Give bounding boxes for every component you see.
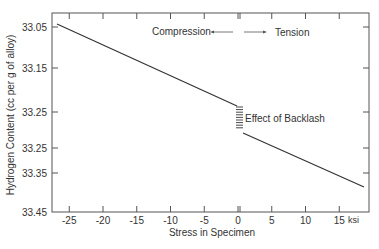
x-tick-label: 5 xyxy=(269,215,275,226)
x-tick-label: -5 xyxy=(200,215,209,226)
x-unit-label: ksi xyxy=(348,215,359,225)
tension-line xyxy=(243,133,364,187)
backlash-label: Effect of Backlash xyxy=(245,113,325,124)
chart: -25-20-15-10-5051015 33.0533.1533.2533.2… xyxy=(0,0,379,249)
x-tick-label: 15 xyxy=(334,215,346,226)
x-tick-label: -10 xyxy=(163,215,178,226)
compression-label: Compression xyxy=(152,26,211,37)
y-tick-label: 33.15 xyxy=(22,63,47,74)
y-tick-label: 33.45 xyxy=(22,207,47,218)
x-tick-label: -20 xyxy=(96,215,111,226)
x-tick-label: -15 xyxy=(130,215,145,226)
x-tick-label: 10 xyxy=(300,215,312,226)
x-tick-label: 0 xyxy=(235,215,241,226)
y-tick-label: 33.25 xyxy=(22,143,47,154)
x-tick-label: -25 xyxy=(62,215,77,226)
right-arrowhead-icon xyxy=(263,31,267,34)
backlash-hatch xyxy=(236,107,243,128)
y-axis-label: Hydrogen Content (cc per g of alloy) xyxy=(5,35,16,196)
y-tick-label: 33.05 xyxy=(22,22,47,33)
tension-label: Tension xyxy=(275,27,309,38)
y-tick-label: 33.25 xyxy=(22,107,47,118)
x-axis-label: Stress in Specimen xyxy=(169,227,255,238)
y-tick-label: 33.35 xyxy=(22,168,47,179)
